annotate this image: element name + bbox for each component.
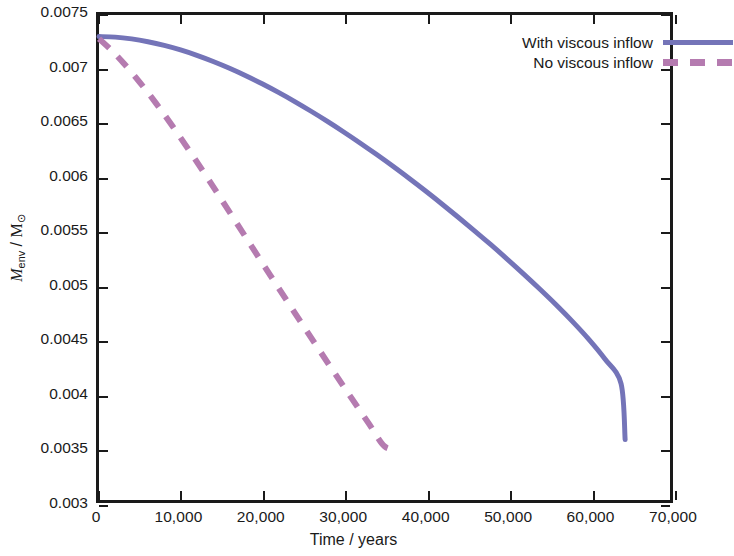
x-axis-title: Time / years <box>0 531 707 549</box>
x-tick-label-2: 20,000 <box>237 508 285 526</box>
x-tick-label-6: 60,000 <box>567 508 615 526</box>
y-tick-label-1: 0.0035 <box>41 439 88 457</box>
y-tick-label-2: 0.004 <box>49 385 88 403</box>
x-tick-bottom-7 <box>675 491 677 500</box>
legend-item-1: No viscous inflow <box>522 53 734 72</box>
y-tick-label-8: 0.007 <box>49 58 88 76</box>
y-tick-label-5: 0.0055 <box>41 221 88 239</box>
legend-swatch-dashed-icon <box>662 53 734 72</box>
x-tick-label-5: 50,000 <box>484 508 532 526</box>
legend-label-0: With viscous inflow <box>522 34 662 52</box>
x-tick-label-0: 0 <box>92 508 101 526</box>
y-tick-label-9: 0.0075 <box>41 3 88 21</box>
x-tick-label-7: 70,000 <box>649 508 697 526</box>
legend-item-0: With viscous inflow <box>522 33 734 52</box>
chart-data-layer <box>99 15 670 500</box>
y-axis-title-unit-subscript: ⊙ <box>15 214 27 223</box>
x-tick-label-1: 10,000 <box>154 508 202 526</box>
plot-area: With viscous inflowNo viscous inflow <box>96 12 673 503</box>
chart-legend: With viscous inflowNo viscous inflow <box>522 33 734 72</box>
y-tick-label-3: 0.0045 <box>41 330 88 348</box>
x-axis-title-text: Time / years <box>310 531 397 549</box>
y-tick-label-4: 0.005 <box>49 276 88 294</box>
y-axis-title-subscript: env <box>15 251 27 269</box>
series-line-1 <box>99 39 397 449</box>
series-line-0 <box>99 37 625 440</box>
legend-swatch-solid-icon <box>662 33 734 52</box>
x-tick-top-7 <box>675 15 677 24</box>
legend-label-1: No viscous inflow <box>533 54 662 72</box>
y-tick-label-0: 0.003 <box>49 494 88 512</box>
y-axis-title-symbol: M <box>8 268 25 281</box>
y-axis-title-unit: M <box>8 223 25 237</box>
y-axis-title: Menv / M⊙ <box>8 168 28 328</box>
y-tick-label-7: 0.0065 <box>41 112 88 130</box>
y-tick-label-6: 0.006 <box>49 167 88 185</box>
y-tick-left-0 <box>99 505 108 507</box>
x-tick-label-3: 30,000 <box>319 508 367 526</box>
x-tick-label-4: 40,000 <box>402 508 450 526</box>
y-axis-title-separator: / <box>8 238 25 251</box>
y-tick-right-0 <box>661 505 670 507</box>
